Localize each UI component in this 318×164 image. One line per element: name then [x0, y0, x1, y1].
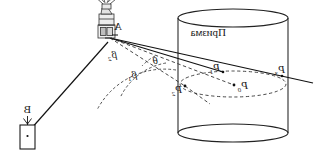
label-point-a: A: [114, 21, 122, 32]
label-point-b: B: [24, 104, 31, 115]
p1-glyph: P: [213, 61, 220, 73]
marker-p1: [222, 71, 225, 74]
figure-canvas: Призма A B θ β1 β2 P0 P1 P2 P3: [0, 0, 318, 164]
angle-arcs: [97, 56, 176, 110]
prism-caption: Призма: [191, 27, 226, 38]
p2-glyph: P: [175, 83, 182, 95]
p2-subscript: 2: [172, 90, 175, 97]
beta-2-subscript: 2: [108, 55, 111, 62]
label-point-p2: P2: [172, 84, 182, 98]
label-point-p3: P3: [275, 64, 285, 78]
label-angle-beta-2: β2: [108, 49, 117, 63]
label-point-p0: P0: [238, 80, 248, 94]
marker-p0: [233, 84, 236, 87]
beta-1-subscript: 1: [128, 75, 131, 82]
label-angle-theta: θ: [153, 55, 158, 66]
p0-subscript: 0: [238, 86, 241, 93]
label-point-p1: P1: [210, 62, 220, 76]
beta-2-glyph: β: [112, 48, 117, 60]
dashed-ray-to-p2: [110, 38, 210, 104]
target-prism-box: [20, 116, 35, 149]
diagram-vector-layer: [0, 0, 318, 164]
section-ellipse-dashed: [180, 71, 286, 97]
p0-glyph: P: [241, 79, 248, 91]
mirrored-scene: Призма A B θ β1 β2 P0 P1 P2 P3: [0, 0, 318, 164]
p3-subscript: 3: [275, 70, 278, 77]
theodolite: [92, 0, 122, 38]
p3-glyph: P: [278, 63, 285, 75]
label-angle-beta-1: β1: [128, 69, 137, 83]
line-a-to-b: [30, 42, 108, 130]
p1-subscript: 1: [210, 68, 213, 75]
beta-1-glyph: β: [132, 68, 137, 80]
marker-p2: [184, 85, 187, 88]
